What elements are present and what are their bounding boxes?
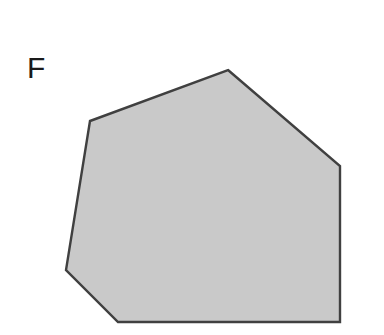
shape-label-f: F: [27, 53, 45, 83]
figure-canvas: [0, 0, 384, 335]
